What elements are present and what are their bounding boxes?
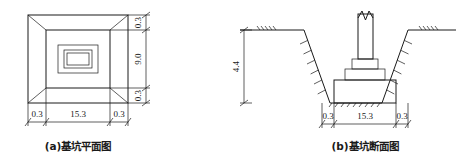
dim-label-plan-right-top-offset: 0.3 [133,16,143,28]
column-core-hatched [67,53,89,65]
dim-label-section-bottom-right-offset: 0.3 [396,111,408,121]
dim-label-plan-bottom-left-offset: 0.3 [31,109,43,119]
slope-earth-hatch-right [387,40,412,94]
slope-diagonal-top-right [110,15,128,30]
dim-label-section-depth: 4.4 [231,60,241,72]
excavation-slope-left [304,30,330,103]
dim-label-plan-bottom-right-offset: 0.3 [113,109,125,119]
slope-diagonal-top-left [28,15,46,30]
pit-outer-boundary [28,15,128,103]
engineering-drawing-sheet: 0.3 9.0 0.3 0.3 15.3 0.3 (a)基坑平面图 [0,0,472,162]
figure-b-caption: (b)基坑断面图 [331,140,398,152]
dim-label-section-bottom-left-offset: 0.3 [322,111,334,121]
slope-diagonal-bottom-right [110,88,128,103]
slope-diagonal-bottom-left [28,88,46,103]
slope-earth-hatch-left [300,40,325,94]
dim-label-section-bottom-width: 15.3 [357,111,373,121]
footing-step-upper [352,59,378,69]
footing-step-lower [345,69,385,80]
concrete-base-pad [334,80,396,103]
figure-b-section-view: 4.4 0.3 15.3 0.3 (b)基坑断面图 [212,0,472,162]
figure-a-plan-view: 0.3 9.0 0.3 0.3 15.3 0.3 (a)基坑平面图 [0,0,212,162]
pit-inner-boundary [46,30,110,88]
ground-hatch-left [257,26,276,30]
dim-label-plan-right-height: 9.0 [133,53,143,65]
figure-a-caption: (a)基坑平面图 [45,140,112,152]
pit-bottom-earth-hatch [329,103,380,107]
ground-hatch-right [419,26,438,30]
dim-label-plan-right-bottom-offset: 0.3 [133,89,143,101]
column-break-symbol [358,11,373,20]
dim-label-plan-bottom-width: 15.3 [70,109,86,119]
excavation-slope-right [382,30,408,103]
